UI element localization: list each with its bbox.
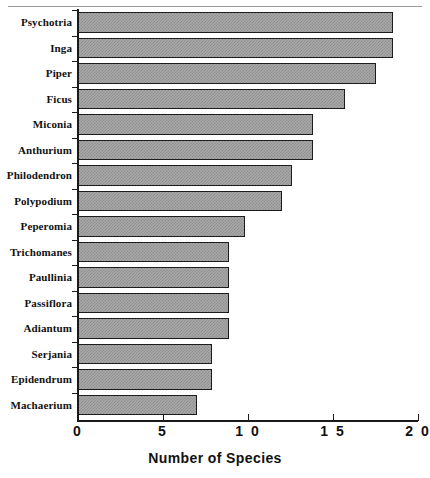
y-tick <box>72 291 77 292</box>
bar-row: Peperomia <box>0 214 430 240</box>
bar-row: Machaerium <box>0 393 430 419</box>
category-label: Machaerium <box>0 393 72 419</box>
bar-row: Psychotria <box>0 10 430 36</box>
category-label: Serjania <box>0 342 72 368</box>
category-label: Ficus <box>0 87 72 113</box>
bar <box>78 395 197 416</box>
y-tick <box>72 367 77 368</box>
category-label: Piper <box>0 61 72 87</box>
y-tick <box>72 214 77 215</box>
bar <box>78 114 313 135</box>
category-label: Trichomanes <box>0 240 72 266</box>
y-tick <box>72 138 77 139</box>
x-tick-label: 5 <box>133 423 193 439</box>
category-label: Philodendron <box>0 163 72 189</box>
bar-row: Philodendron <box>0 163 430 189</box>
category-label: Polypodium <box>0 189 72 215</box>
category-label: Epidendrum <box>0 367 72 393</box>
category-label: Paullinia <box>0 265 72 291</box>
bar-row: Inga <box>0 36 430 62</box>
bar <box>78 89 345 110</box>
y-tick <box>72 316 77 317</box>
bar <box>78 140 313 161</box>
bar <box>78 293 229 314</box>
bar-row: Epidendrum <box>0 367 430 393</box>
y-tick <box>72 87 77 88</box>
bar <box>78 63 376 84</box>
bar-row: Trichomanes <box>0 240 430 266</box>
bar-row: Serjania <box>0 342 430 368</box>
bar <box>78 165 292 186</box>
species-bar-chart: PsychotriaIngaPiperFicusMiconiaAnthurium… <box>0 0 430 478</box>
x-tick <box>78 414 79 421</box>
category-label: Psychotria <box>0 10 72 36</box>
bar-row: Ficus <box>0 87 430 113</box>
x-tick-label: 1 5 <box>303 423 363 439</box>
category-label: Inga <box>0 36 72 62</box>
y-tick <box>72 342 77 343</box>
y-tick <box>72 393 77 394</box>
x-tick <box>333 414 334 421</box>
x-tick <box>418 414 419 421</box>
bar-row: Adiantum <box>0 316 430 342</box>
y-tick <box>72 36 77 37</box>
bar <box>78 344 212 365</box>
bar-row: Paullinia <box>0 265 430 291</box>
y-tick <box>72 163 77 164</box>
bar-row: Miconia <box>0 112 430 138</box>
category-label: Anthurium <box>0 138 72 164</box>
category-label: Miconia <box>0 112 72 138</box>
bar-row: Passiflora <box>0 291 430 317</box>
y-tick <box>72 240 77 241</box>
bar-row: Polypodium <box>0 189 430 215</box>
category-label: Adiantum <box>0 316 72 342</box>
bar <box>78 369 212 390</box>
y-tick <box>72 10 77 11</box>
bar-row: Piper <box>0 61 430 87</box>
x-tick-label: 1 0 <box>218 423 278 439</box>
bar <box>78 38 393 59</box>
bar-row: Anthurium <box>0 138 430 164</box>
x-tick-label: 2 0 <box>388 423 430 439</box>
category-label: Peperomia <box>0 214 72 240</box>
x-tick <box>248 414 249 421</box>
bar <box>78 191 282 212</box>
bar <box>78 12 393 33</box>
bar <box>78 318 229 339</box>
bar <box>78 242 229 263</box>
bar-rows: PsychotriaIngaPiperFicusMiconiaAnthurium… <box>0 10 430 418</box>
y-tick <box>72 112 77 113</box>
bar <box>78 267 229 288</box>
y-tick <box>72 61 77 62</box>
x-tick-label: 0 <box>48 423 108 439</box>
x-tick <box>163 414 164 421</box>
y-tick <box>72 189 77 190</box>
y-tick <box>72 265 77 266</box>
x-axis-title: Number of Species <box>0 450 430 466</box>
bar <box>78 216 245 237</box>
scan-top-rule <box>8 6 422 7</box>
category-label: Passiflora <box>0 291 72 317</box>
